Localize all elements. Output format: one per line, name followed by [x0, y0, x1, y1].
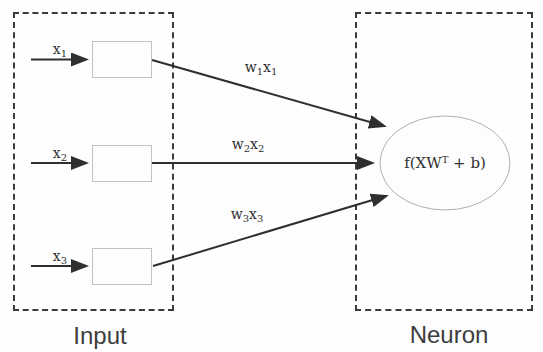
- formula-post: + b): [448, 154, 486, 172]
- neuron-caption: Neuron: [410, 321, 489, 349]
- input-label-x3: x3: [53, 249, 67, 263]
- w1-x-sub: 1: [271, 66, 277, 77]
- input-label-x3-sub: 3: [61, 255, 67, 266]
- w2-base: w: [232, 136, 244, 152]
- w3-base: w: [231, 206, 243, 222]
- input-caption: Input: [73, 322, 126, 350]
- input-label-x1-sub: 1: [61, 48, 67, 59]
- input-label-x1: x1: [53, 42, 67, 56]
- input-label-x1-base: x: [53, 41, 61, 57]
- weight-arrow-3: [153, 196, 386, 266]
- w3-x-sub: 3: [257, 213, 263, 224]
- input-label-x3-base: x: [53, 248, 61, 264]
- w1-base: w: [245, 59, 257, 75]
- weight-label-w2x2: w2x2: [232, 137, 265, 151]
- input-label-x2-sub: 2: [61, 152, 67, 163]
- neuron-activation-formula: f(XWT + b): [380, 116, 510, 210]
- w2-x-sub: 2: [258, 143, 264, 154]
- input-label-x2-base: x: [53, 145, 61, 161]
- neuron-diagram: x1 x2 x3 w1x1 w2x2 w3x3 f(XWT + b) Input…: [0, 0, 543, 352]
- weight-label-w1x1: w1x1: [245, 60, 278, 74]
- formula-pre: f(XW: [404, 154, 442, 172]
- input-label-x2: x2: [53, 146, 67, 160]
- weight-label-w3x3: w3x3: [231, 207, 264, 221]
